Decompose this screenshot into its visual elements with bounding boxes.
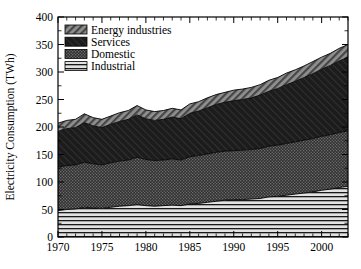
y-tick-label: 150 xyxy=(36,149,54,161)
legend-swatch-industrial xyxy=(65,62,87,71)
x-tick-label: 1985 xyxy=(178,241,201,253)
x-tick-label: 1980 xyxy=(134,241,157,253)
chart-figure: 050100150200250300350400 197019751980198… xyxy=(0,0,361,269)
y-tick-label: 400 xyxy=(36,11,54,23)
x-tick-label: 2000 xyxy=(310,241,333,253)
y-tick-label: 300 xyxy=(36,66,54,78)
legend-label-domestic: Domestic xyxy=(91,48,135,60)
y-tick-label: 350 xyxy=(36,39,54,51)
x-tick-label: 1995 xyxy=(266,241,289,253)
y-tick-label: 50 xyxy=(42,204,54,216)
legend-swatch-energy-industries xyxy=(65,25,87,34)
x-tick-label: 1990 xyxy=(222,241,245,253)
x-tick-label: 1975 xyxy=(90,241,113,253)
y-tick-label: 250 xyxy=(36,94,54,106)
y-axis-title: Electricity Consumption (TWh) xyxy=(4,53,17,200)
y-tick-label: 200 xyxy=(36,121,54,133)
legend-label-services: Services xyxy=(91,36,130,48)
legend-label-energy-industries: Energy industries xyxy=(91,24,172,37)
stacked-area-chart: 050100150200250300350400 197019751980198… xyxy=(0,0,361,269)
legend-swatch-domestic xyxy=(65,49,87,58)
legend-label-industrial: Industrial xyxy=(91,60,135,72)
x-axis-tick-labels: 1970197519801985199019952000 xyxy=(47,241,334,253)
y-axis-tick-labels: 050100150200250300350400 xyxy=(36,11,54,243)
legend-swatch-services xyxy=(65,37,87,46)
y-tick-label: 100 xyxy=(36,176,54,188)
x-tick-label: 1970 xyxy=(47,241,70,253)
